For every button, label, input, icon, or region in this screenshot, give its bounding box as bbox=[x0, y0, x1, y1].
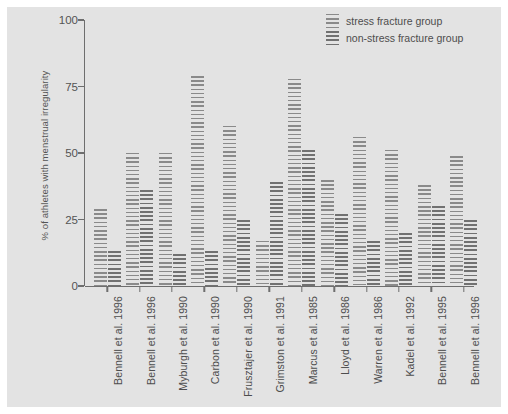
x-tick-label: Kadel et al. 1992 bbox=[404, 296, 416, 377]
x-tick-mark bbox=[107, 286, 108, 292]
bar bbox=[385, 150, 398, 286]
plot-area bbox=[85, 20, 485, 286]
bar bbox=[159, 153, 172, 286]
y-tick-mark bbox=[78, 285, 84, 286]
y-tick-label: 25 bbox=[44, 214, 78, 226]
y-tick-mark bbox=[78, 219, 84, 220]
bar bbox=[191, 76, 204, 286]
bar-group bbox=[223, 20, 251, 286]
bar bbox=[173, 254, 186, 286]
bar-group bbox=[288, 20, 316, 286]
bar bbox=[302, 150, 315, 286]
x-tick-label: Myburgh et al. 1990 bbox=[177, 296, 189, 391]
chart-legend: stress fracture group non-stress fractur… bbox=[326, 12, 463, 46]
bar bbox=[288, 79, 301, 286]
bar bbox=[223, 126, 236, 286]
y-tick-label: 0 bbox=[44, 280, 78, 292]
bar-group bbox=[320, 20, 348, 286]
bar-group bbox=[93, 20, 121, 286]
y-tick-label: 50 bbox=[44, 147, 78, 159]
bar bbox=[353, 137, 366, 286]
bar bbox=[335, 214, 348, 286]
bar-group bbox=[353, 20, 381, 286]
y-tick-label: 100 bbox=[44, 14, 78, 26]
legend-swatch-icon bbox=[326, 14, 339, 28]
x-tick-label: Bennell et al. 1996 bbox=[112, 296, 124, 385]
y-tick-mark bbox=[78, 19, 84, 20]
bar bbox=[450, 156, 463, 286]
bar-group bbox=[450, 20, 478, 286]
x-tick-label: Bennell et al. 1995 bbox=[436, 296, 448, 385]
bar bbox=[237, 220, 250, 287]
bar bbox=[399, 233, 412, 286]
legend-label: stress fracture group bbox=[346, 15, 442, 27]
y-tick-mark bbox=[78, 86, 84, 87]
legend-swatch-icon bbox=[326, 31, 339, 45]
chart-figure: % of athletes with menstrual irregularit… bbox=[0, 0, 508, 414]
bar-group bbox=[255, 20, 283, 286]
x-tick-mark bbox=[236, 286, 237, 292]
bar bbox=[108, 251, 121, 286]
x-tick-label: Carbon et al. 1990 bbox=[209, 296, 221, 384]
bar bbox=[367, 241, 380, 286]
bar bbox=[256, 241, 269, 286]
x-tick-mark bbox=[463, 286, 464, 292]
x-tick-label: Bennell et al. 1996 bbox=[469, 296, 481, 385]
x-tick-label: Warren et al. 1986 bbox=[372, 296, 384, 384]
legend-label: non-stress fracture group bbox=[346, 32, 463, 44]
bar bbox=[205, 251, 218, 286]
bar-group bbox=[158, 20, 186, 286]
legend-item-stress-fracture-group: stress fracture group bbox=[326, 12, 463, 29]
x-tick-label: Frusztajer et al. 1990 bbox=[242, 296, 254, 397]
x-tick-mark bbox=[204, 286, 205, 292]
bar-group bbox=[126, 20, 154, 286]
x-tick-label: Grimston et al. 1991 bbox=[274, 296, 286, 393]
bar bbox=[94, 209, 107, 286]
x-tick-mark bbox=[431, 286, 432, 292]
bar-group bbox=[190, 20, 218, 286]
x-tick-mark bbox=[333, 286, 334, 292]
x-tick-mark bbox=[139, 286, 140, 292]
bar bbox=[126, 153, 139, 286]
x-tick-label: Marcus et al. 1985 bbox=[307, 296, 319, 384]
bar-group bbox=[385, 20, 413, 286]
x-tick-mark bbox=[301, 286, 302, 292]
y-tick-label: 75 bbox=[44, 81, 78, 93]
bar bbox=[432, 206, 445, 286]
bar bbox=[321, 180, 334, 286]
bar bbox=[140, 190, 153, 286]
bar bbox=[270, 182, 283, 286]
x-tick-label: Lloyd et al. 1986 bbox=[339, 296, 351, 375]
bar-group bbox=[417, 20, 445, 286]
x-tick-mark bbox=[366, 286, 367, 292]
x-tick-mark bbox=[398, 286, 399, 292]
bar bbox=[418, 185, 431, 286]
x-tick-mark bbox=[269, 286, 270, 292]
legend-item-non-stress-fracture-group: non-stress fracture group bbox=[326, 29, 463, 46]
x-tick-mark bbox=[171, 286, 172, 292]
x-tick-label: Bennell et al. 1996 bbox=[145, 296, 157, 385]
bar bbox=[464, 220, 477, 287]
y-axis-tick-labels: 0255075100 bbox=[36, 0, 78, 400]
y-tick-mark bbox=[78, 152, 84, 153]
